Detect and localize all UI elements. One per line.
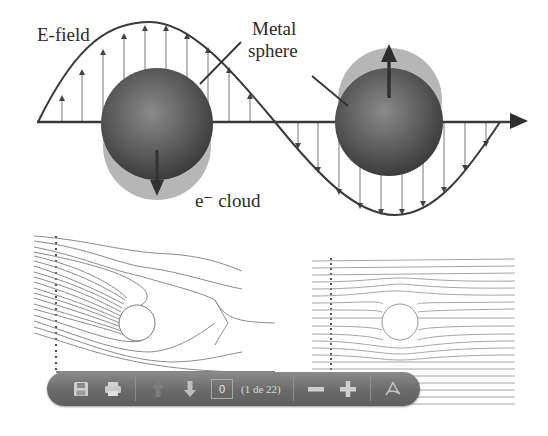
- adobe-acrobat-icon: [384, 380, 402, 398]
- toolbar-separator: [293, 377, 294, 401]
- printer-icon: [104, 381, 122, 397]
- floppy-disk-icon: [73, 381, 89, 397]
- print-button[interactable]: [102, 378, 124, 400]
- pdf-viewer-toolbar: 0 (1 de 22): [47, 372, 420, 406]
- zoom-out-button[interactable]: [305, 378, 327, 400]
- toolbar-separator: [135, 377, 136, 401]
- save-button[interactable]: [70, 378, 92, 400]
- previous-page-button[interactable]: [147, 378, 169, 400]
- acrobat-button[interactable]: [382, 378, 404, 400]
- plus-icon: [339, 380, 357, 398]
- metal-sphere-2: [335, 44, 443, 176]
- arrow-up-icon: [151, 380, 165, 398]
- electron-cloud-label: e⁻ cloud: [195, 190, 260, 212]
- next-page-button[interactable]: [179, 378, 201, 400]
- field-lines-panel-conductor: [34, 236, 275, 372]
- axis-arrowhead-icon: [510, 113, 528, 129]
- zoom-in-button[interactable]: [337, 378, 359, 400]
- metal-sphere-label-line1: Metal: [252, 18, 296, 40]
- toolbar-separator: [370, 377, 371, 401]
- diagram-canvas: [0, 0, 548, 436]
- arrow-down-icon: [183, 380, 197, 398]
- minus-icon: [307, 380, 325, 398]
- page-number-input[interactable]: 0: [211, 379, 233, 399]
- efield-label: E-field: [37, 24, 90, 46]
- metal-sphere-1: [101, 68, 213, 200]
- metal-sphere-label-line2: sphere: [248, 40, 298, 62]
- page-count: (1 de 22): [241, 383, 281, 395]
